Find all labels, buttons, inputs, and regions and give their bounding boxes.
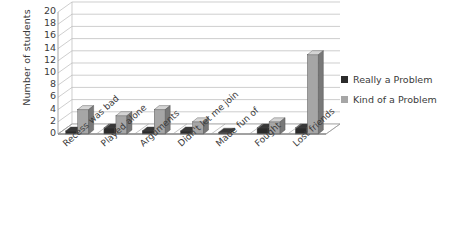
legend-swatch-icon	[341, 76, 348, 83]
legend-label: Kind of a Problem	[353, 94, 437, 105]
x-tick-label: Fought	[253, 120, 283, 148]
x-tick-label: Lost friends	[291, 106, 337, 149]
legend-label: Really a Problem	[353, 74, 432, 85]
legend-item[interactable]: Really a Problem	[341, 74, 453, 85]
x-tick-label: Didn't let me join	[176, 89, 240, 148]
legend-swatch-icon	[341, 96, 348, 103]
chart-legend: Really a ProblemKind of a Problem	[341, 74, 453, 114]
bar-chart: Number of students 20181614121086420 Rec…	[0, 0, 453, 225]
legend-item[interactable]: Kind of a Problem	[341, 94, 453, 105]
x-tick-label: Arguments	[138, 108, 181, 148]
